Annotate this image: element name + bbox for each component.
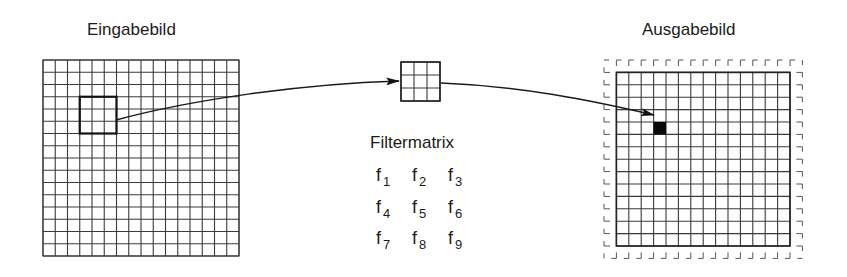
filter-coefficient-f5: f5	[412, 197, 426, 218]
coefficient-index: 3	[455, 174, 462, 189]
filter-coefficient-f2: f2	[412, 165, 426, 186]
coefficient-index: 6	[455, 206, 462, 221]
filter-coefficient-f1: f1	[376, 165, 390, 186]
input-highlight-window	[80, 97, 117, 134]
coefficient-index: 4	[383, 206, 390, 221]
output-image-label: Ausgabebild	[642, 20, 736, 40]
filter-coefficients: f1f2f3f4f5f6f7f8f9	[376, 165, 486, 265]
coefficient-index: 7	[383, 237, 390, 252]
filter-coefficient-f9: f9	[448, 228, 462, 249]
filter-matrix-box	[401, 62, 440, 101]
coefficient-index: 1	[383, 174, 390, 189]
coefficient-symbol: f	[376, 165, 381, 185]
filter-coefficient-f4: f4	[376, 197, 390, 218]
coefficient-symbol: f	[412, 228, 417, 248]
filter-matrix-label: Filtermatrix	[370, 133, 454, 153]
arrow-input-to-filter	[116, 81, 399, 120]
coefficient-index: 2	[419, 174, 426, 189]
coefficient-index: 5	[419, 206, 426, 221]
coefficient-symbol: f	[448, 165, 453, 185]
filter-coefficient-f8: f8	[412, 228, 426, 249]
coefficient-symbol: f	[412, 165, 417, 185]
coefficient-index: 9	[455, 237, 462, 252]
coefficient-index: 8	[419, 237, 426, 252]
coefficient-symbol: f	[448, 197, 453, 217]
coefficient-symbol: f	[412, 197, 417, 217]
coefficient-symbol: f	[376, 228, 381, 248]
input-image-label: Eingabebild	[87, 20, 176, 40]
filter-coefficient-f6: f6	[448, 197, 462, 218]
coefficient-symbol: f	[376, 197, 381, 217]
filter-coefficient-f3: f3	[448, 165, 462, 186]
arrow-filter-to-output	[441, 83, 654, 115]
filter-coefficient-f7: f7	[376, 228, 390, 249]
input-image-grid	[43, 60, 239, 256]
output-image-grid	[616, 72, 790, 246]
output-filled-pixel	[654, 122, 666, 134]
coefficient-symbol: f	[448, 228, 453, 248]
